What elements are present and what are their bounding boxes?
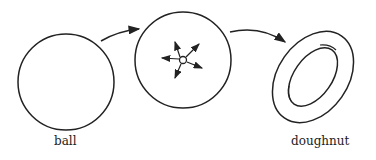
arrow-ball-to-sphere <box>101 29 139 41</box>
doughnut-label: doughnut <box>291 134 349 148</box>
ball-circle <box>18 34 114 130</box>
doughnut-outer-ellipse <box>256 16 371 138</box>
ball-label: ball <box>54 134 77 148</box>
arrow-sphere-to-doughnut <box>230 30 285 42</box>
puncture-hole-icon <box>180 57 187 64</box>
